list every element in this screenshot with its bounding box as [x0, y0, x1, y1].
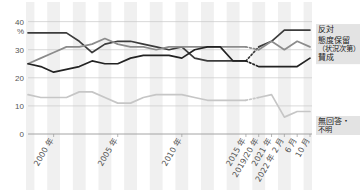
y-tick-label: 30 — [15, 46, 24, 55]
y-axis-unit-label: % — [17, 27, 24, 36]
chart-plot-area: 010203040% 2000 年2005 年2010 年2015 年2019/… — [0, 0, 364, 192]
line-chart: 010203040% 2000 年2005 年2010 年2015 年2019/… — [0, 0, 364, 192]
y-tick-label: 40 — [15, 18, 24, 27]
y-axis-ticks: 010203040% — [15, 18, 24, 139]
y-tick-label: 0 — [20, 130, 25, 139]
legend-label-3-line2: 不明 — [318, 125, 332, 134]
series-lines — [28, 30, 310, 117]
y-tick-label: 20 — [15, 74, 24, 83]
legend-label-0: 反対 — [318, 24, 334, 34]
gridlines — [28, 22, 312, 134]
chart-legend: 反対態度保留（状況次第）賛成無回答・不明 — [316, 24, 360, 135]
legend-label-1-line2: （状況次第） — [318, 44, 360, 53]
y-tick-label: 10 — [15, 102, 24, 111]
legend-label-2: 賛成 — [318, 52, 334, 62]
